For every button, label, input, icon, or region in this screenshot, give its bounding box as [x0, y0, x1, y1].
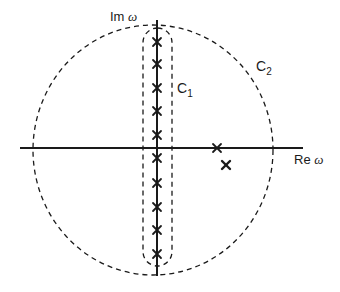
contour-c2-circle	[33, 25, 273, 275]
real-axis-label: Re ω	[294, 152, 323, 167]
off-axis-pole-marker-icon	[222, 161, 230, 169]
contour-c2-label: C2	[256, 58, 272, 77]
contour-c1-label: C1	[177, 80, 193, 99]
imaginary-axis-label: Im ω	[110, 9, 137, 24]
complex-plane-diagram: Im ω Re ω C1 C2	[0, 0, 340, 292]
